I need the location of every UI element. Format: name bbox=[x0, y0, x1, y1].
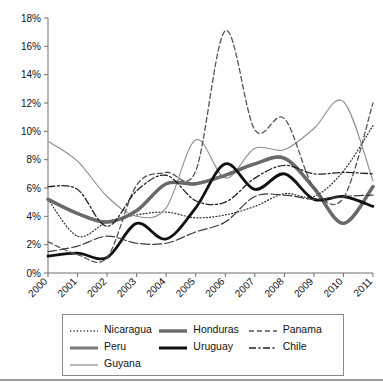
x-tick-label: 2008 bbox=[262, 275, 286, 299]
legend-item-label: Peru bbox=[104, 340, 126, 352]
y-tick-label: 18% bbox=[21, 13, 41, 24]
legend-item-label: Chile bbox=[283, 340, 307, 352]
x-tick-label: 2002 bbox=[85, 275, 109, 299]
y-tick-label: 16% bbox=[21, 41, 41, 52]
legend-item-peru[interactable]: Peru bbox=[69, 337, 158, 354]
x-tick-label: 2009 bbox=[292, 275, 316, 299]
plot-area: 0%2%4%6%8%10%12%14%16%18%200020012002200… bbox=[0, 0, 383, 300]
chart-legend: NicaraguaHondurasPanamaPeruUruguayChileG… bbox=[62, 314, 344, 376]
legend-item-label: Nicaragua bbox=[104, 323, 152, 335]
legend-swatch-icon bbox=[158, 340, 188, 352]
legend-item-label: Guyana bbox=[104, 357, 141, 369]
y-tick-label: 8% bbox=[27, 154, 42, 165]
x-tick-label: 2000 bbox=[26, 275, 50, 299]
figure: 0%2%4%6%8%10%12%14%16%18%200020012002200… bbox=[0, 0, 383, 389]
legend-item-guyana[interactable]: Guyana bbox=[69, 354, 158, 371]
x-tick-label: 2003 bbox=[115, 275, 139, 299]
legend-item-nicaragua[interactable]: Nicaragua bbox=[69, 320, 158, 337]
footer-divider bbox=[0, 379, 383, 381]
legend-item-label: Uruguay bbox=[193, 340, 233, 352]
y-tick-label: 4% bbox=[27, 211, 42, 222]
legend-swatch-icon bbox=[69, 340, 99, 352]
legend-swatch-icon bbox=[248, 323, 278, 335]
x-tick-label: 2010 bbox=[321, 275, 345, 299]
x-tick-label: 2005 bbox=[174, 275, 198, 299]
legend-swatch-icon bbox=[158, 323, 188, 335]
legend-item-label: Honduras bbox=[193, 323, 239, 335]
y-tick-label: 0% bbox=[27, 268, 42, 279]
line-chart: 0%2%4%6%8%10%12%14%16%18%200020012002200… bbox=[0, 0, 383, 300]
legend-swatch-icon bbox=[248, 340, 278, 352]
legend-item-panama[interactable]: Panama bbox=[248, 320, 337, 337]
legend-item-label: Panama bbox=[283, 323, 322, 335]
x-tick-label: 2006 bbox=[203, 275, 227, 299]
legend-item-uruguay[interactable]: Uruguay bbox=[158, 337, 247, 354]
y-tick-label: 10% bbox=[21, 126, 41, 137]
x-tick-label: 2001 bbox=[55, 275, 79, 299]
y-tick-label: 2% bbox=[27, 239, 42, 250]
legend-grid: NicaraguaHondurasPanamaPeruUruguayChileG… bbox=[69, 320, 337, 371]
legend-item-honduras[interactable]: Honduras bbox=[158, 320, 247, 337]
legend-swatch-icon bbox=[69, 357, 99, 369]
y-tick-label: 6% bbox=[27, 183, 42, 194]
y-tick-label: 14% bbox=[21, 69, 41, 80]
series-line-uruguay bbox=[48, 164, 373, 259]
legend-item-chile[interactable]: Chile bbox=[248, 337, 337, 354]
legend-swatch-icon bbox=[69, 323, 99, 335]
x-tick-label: 2011 bbox=[351, 275, 374, 298]
x-tick-label: 2004 bbox=[144, 275, 168, 299]
y-tick-label: 12% bbox=[21, 98, 41, 109]
x-tick-label: 2007 bbox=[233, 275, 257, 299]
